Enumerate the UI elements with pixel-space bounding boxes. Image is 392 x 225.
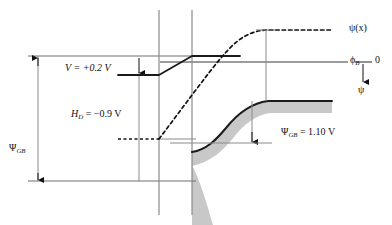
band-potential-diagram: V = +0.2 V HD = −0.9 V ΨGB ΨGB = 1.10 V … [0, 0, 392, 225]
phi-b-label: ϕB [350, 54, 359, 66]
diagram-canvas [0, 0, 392, 225]
psi-gb-right-label: ΨGB = 1.10 V [281, 126, 335, 138]
psi-of-x-label: ψ(x) [349, 22, 367, 33]
psi-axis-label: ψ [358, 84, 364, 95]
zero-label: 0 [375, 54, 380, 65]
hd-label: HD = −0.9 V [71, 108, 121, 120]
psi-gb-left-label: ΨGB [9, 142, 25, 154]
gate-level-curve [118, 56, 240, 75]
voltage-label: V = +0.2 V [65, 62, 111, 73]
